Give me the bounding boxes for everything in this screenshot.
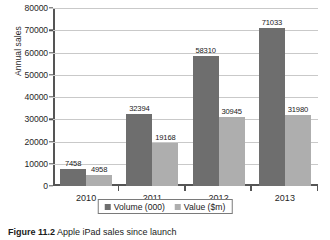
bar-group: 7103331980	[252, 8, 318, 186]
bar-chart: Annual sales 800007000060000500004000030…	[0, 0, 330, 218]
y-tick-label: 30000	[25, 114, 48, 124]
bar-value-label: 4958	[91, 165, 107, 174]
x-tick-mark	[317, 186, 318, 191]
y-tick-label: 20000	[25, 137, 48, 147]
figure-caption: Figure 11.2 Apple iPad sales since launc…	[8, 227, 326, 237]
bar[interactable]: 58310	[193, 56, 219, 186]
bar[interactable]: 19168	[152, 143, 178, 186]
bar[interactable]: 30945	[219, 117, 245, 186]
legend-item[interactable]: Value ($m)	[175, 202, 225, 212]
legend-label: Value ($m)	[184, 202, 225, 212]
bar-value-label: 31980	[288, 105, 308, 114]
bar-slot: 71033	[259, 8, 285, 186]
bar[interactable]: 4958	[86, 175, 112, 186]
y-tick-label: 80000	[25, 3, 48, 13]
bar-value-label: 7458	[65, 159, 81, 168]
legend-label: Volume (000)	[114, 202, 165, 212]
bar-slot: 30945	[219, 8, 245, 186]
y-tick-label: 0	[43, 181, 48, 191]
bar-value-label: 58310	[195, 46, 215, 55]
bar-value-label: 71033	[262, 18, 282, 27]
legend-item[interactable]: Volume (000)	[105, 202, 165, 212]
bar-slot: 32394	[126, 8, 152, 186]
bar[interactable]: 71033	[259, 28, 285, 186]
bar[interactable]: 7458	[60, 169, 86, 186]
y-tick-label: 60000	[25, 48, 48, 58]
bar-slot: 58310	[193, 8, 219, 186]
figure-container: Annual sales 800007000060000500004000030…	[0, 0, 330, 240]
y-tick-label: 50000	[25, 70, 48, 80]
bar-groups: 74584958323941916858310309457103331980	[53, 8, 318, 186]
bar-slot: 31980	[285, 8, 311, 186]
x-tick-label: 2013	[252, 193, 318, 203]
y-axis-title: Annual sales	[13, 3, 23, 99]
y-tick-label: 40000	[25, 92, 48, 102]
y-tick-label: 10000	[25, 159, 48, 169]
caption-number: Figure 11.2	[8, 227, 55, 237]
x-tick: 2013	[252, 186, 318, 208]
bar-group: 5831030945	[186, 8, 252, 186]
bar-group: 3239419168	[119, 8, 185, 186]
chart-legend: Volume (000)Value ($m)	[98, 199, 233, 214]
bar-slot: 19168	[152, 8, 178, 186]
bar-group: 74584958	[53, 8, 119, 186]
legend-swatch	[105, 204, 111, 210]
bar-value-label: 30945	[221, 107, 241, 116]
legend-swatch	[175, 204, 181, 210]
bar-value-label: 32394	[129, 104, 149, 113]
bar-slot: 7458	[60, 8, 86, 186]
bar-value-label: 19168	[155, 133, 175, 142]
bar[interactable]: 31980	[285, 115, 311, 186]
bar-slot: 4958	[86, 8, 112, 186]
caption-text: Apple iPad sales since launch	[57, 227, 177, 237]
plot-area: 8000070000600005000040000300002000010000…	[53, 8, 318, 186]
y-tick-label: 70000	[25, 25, 48, 35]
bar[interactable]: 32394	[126, 114, 152, 186]
